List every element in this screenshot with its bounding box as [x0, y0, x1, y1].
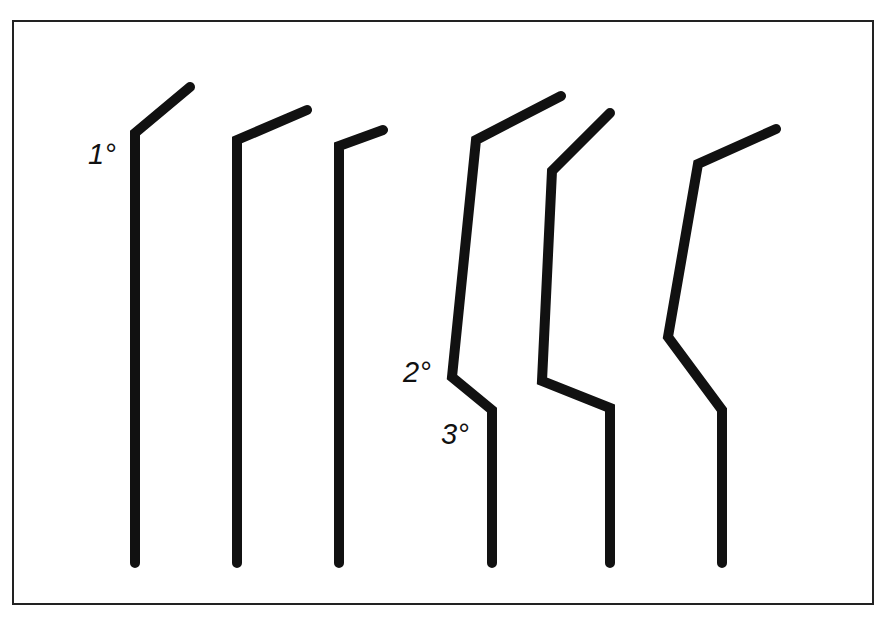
- figure-2-line: [237, 110, 307, 563]
- figure-6-line: [668, 129, 776, 563]
- spine-curvature-diagram: 1° 2° 3°: [0, 0, 884, 621]
- label-secondary-curve: 2°: [402, 356, 431, 388]
- label-tertiary-curve: 3°: [441, 418, 469, 450]
- label-primary-curve: 1°: [88, 138, 116, 170]
- figure-5-line: [542, 113, 610, 563]
- figure-3-line: [339, 130, 383, 563]
- figure-1-line: [135, 87, 190, 563]
